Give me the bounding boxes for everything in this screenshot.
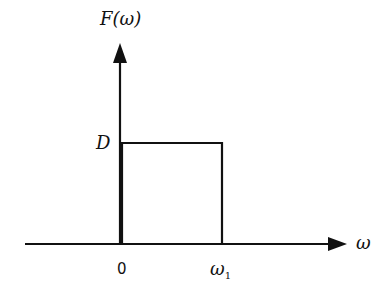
rectangular-pulse [122,143,222,244]
diagram-graphics [0,0,391,292]
cutoff-symbol: ω [210,258,225,279]
cutoff-subscript: 1 [225,270,231,281]
x-axis-label: ω [356,234,371,252]
y-axis-arrow-icon [113,43,127,63]
spectrum-diagram: F(ω) D 0 ω1 ω [0,0,391,292]
level-label: D [96,134,110,152]
cutoff-label: ω1 [210,260,231,278]
y-axis-label: F(ω) [100,10,141,28]
y-axis-label-text: F(ω) [100,8,141,29]
x-axis-arrow-icon [328,237,347,251]
origin-label: 0 [117,262,127,277]
